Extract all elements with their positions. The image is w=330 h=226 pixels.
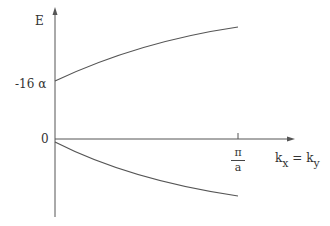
y-tick-label-minus-16-alpha: -16 α — [15, 78, 46, 90]
upper-band-curve — [55, 27, 238, 81]
x-tick-label-pi-over-a: π a — [228, 147, 248, 174]
lower-band-curve — [55, 142, 238, 196]
x-axis-sub-x: x — [282, 157, 288, 170]
x-axis-label: kx = ky — [275, 152, 320, 164]
y-axis-label: E — [35, 15, 44, 27]
x-tick-numerator: π — [228, 147, 248, 159]
x-axis-equals: = — [289, 151, 307, 165]
x-axis-sub-y: y — [313, 157, 319, 170]
y-tick-label-zero: 0 — [41, 133, 49, 145]
x-tick-denominator: a — [228, 162, 248, 174]
y-axis-arrow-icon — [53, 7, 58, 15]
x-axis-arrow-icon — [287, 137, 295, 142]
band-structure-plot — [0, 0, 330, 226]
